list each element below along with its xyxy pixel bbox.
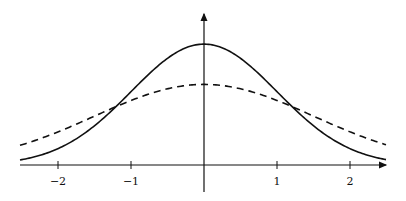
x-tick-label: 2 — [347, 175, 354, 188]
solid-curve — [20, 44, 386, 160]
x-tick-label: −2 — [50, 175, 66, 188]
x-tick-label: −1 — [123, 175, 139, 188]
x-tick-label: 1 — [274, 175, 281, 188]
chart-plot: −2−112 — [0, 0, 406, 201]
dashed-curve — [20, 84, 386, 145]
